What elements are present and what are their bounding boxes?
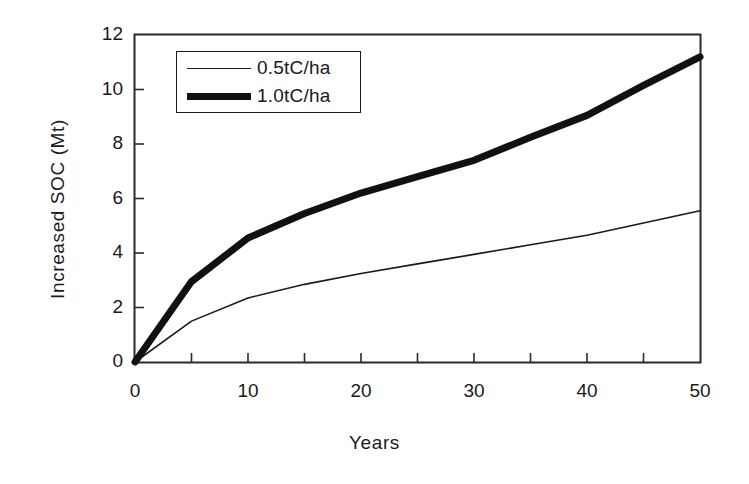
legend-item-thick: 1.0tC/ha	[187, 85, 330, 107]
legend-label-thick: 1.0tC/ha	[257, 85, 330, 107]
x-tick-label-40: 40	[561, 380, 613, 402]
y-tick-label-10: 10	[79, 78, 123, 100]
legend-swatch-thick-line-icon	[187, 93, 251, 100]
y-tick-label-12: 12	[79, 23, 123, 45]
x-tick-label-20: 20	[335, 380, 387, 402]
x-tick-label-30: 30	[448, 380, 500, 402]
x-tick-label-0: 0	[109, 380, 161, 402]
y-tick-label-8: 8	[79, 132, 123, 154]
x-axis-title: Years	[0, 432, 749, 454]
y-tick-label-6: 6	[79, 187, 123, 209]
legend-label-thin: 0.5tC/ha	[257, 57, 330, 79]
legend-item-thin: 0.5tC/ha	[187, 57, 330, 79]
y-tick-label-0: 0	[79, 350, 123, 372]
y-tick-label-2: 2	[79, 296, 123, 318]
chart-figure: 121086420 01020304050 Increased SOC (Mt)…	[0, 0, 749, 484]
x-tick-label-50: 50	[674, 380, 726, 402]
chart-legend: 0.5tC/ha 1.0tC/ha	[176, 51, 361, 113]
y-tick-label-4: 4	[79, 241, 123, 263]
x-tick-label-10: 10	[222, 380, 274, 402]
legend-swatch-thin-line-icon	[187, 68, 251, 69]
y-axis-title: Increased SOC (Mt)	[47, 89, 69, 329]
